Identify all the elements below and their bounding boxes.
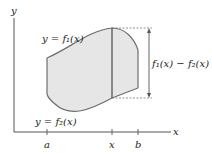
- tick-label-a: a: [44, 139, 50, 150]
- arrow-head-down-icon: [147, 93, 151, 98]
- tick-label-x: x: [109, 139, 115, 150]
- difference-label: f₁(x) − f₂(x): [151, 58, 209, 69]
- arrow-head-up-icon: [147, 28, 151, 33]
- x-axis-label: x: [173, 126, 179, 137]
- tick-label-b: b: [135, 139, 141, 150]
- lower-curve-label: y = f₂(x): [34, 116, 77, 127]
- area-between-curves-diagram: y x y = f₁(x) y = f₂(x) f₁(x) − f₂(x) a …: [0, 0, 212, 153]
- upper-curve-label: y = f₁(x): [41, 33, 84, 44]
- y-axis-label: y: [10, 5, 17, 16]
